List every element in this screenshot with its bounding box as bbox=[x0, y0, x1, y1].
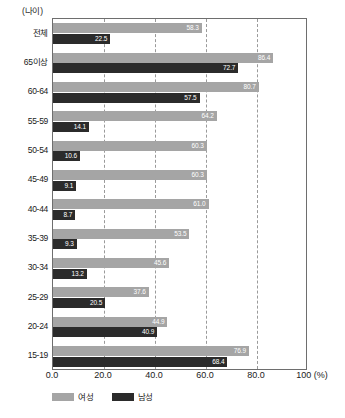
bar-chart: (나이) 전체65이상60-6455-5950-5445-4940-4435-3… bbox=[0, 0, 345, 418]
bar-female: 76.9 bbox=[53, 346, 249, 356]
bar-female: 61.0 bbox=[53, 199, 209, 209]
x-axis-tick-label: 80.0 bbox=[247, 371, 265, 380]
bar-female: 64.2 bbox=[53, 111, 217, 121]
bar-female: 86.4 bbox=[53, 53, 273, 63]
legend-item: 남성 bbox=[112, 393, 154, 402]
bar-value-label: 58.3 bbox=[186, 25, 198, 32]
bar-group: 45.613.2 bbox=[53, 254, 306, 283]
bar-value-label: 37.6 bbox=[134, 289, 146, 296]
legend-swatch-male bbox=[112, 393, 134, 401]
bar-male: 20.5 bbox=[53, 298, 105, 308]
x-axis-tick-label: 40.0 bbox=[145, 371, 163, 380]
y-axis-label: 50-54 bbox=[0, 146, 48, 155]
bar-female: 44.9 bbox=[53, 317, 167, 327]
y-axis-label: 30-34 bbox=[0, 263, 48, 272]
bar-female: 60.3 bbox=[53, 141, 207, 151]
bar-group: 37.620.5 bbox=[53, 283, 306, 312]
x-axis-tick-label: 0.0 bbox=[46, 371, 59, 380]
bar-male: 57.5 bbox=[53, 93, 200, 103]
x-axis-tick-label: 60.0 bbox=[196, 371, 214, 380]
bar-group: 86.472.7 bbox=[53, 48, 306, 77]
bar-group: 60.310.6 bbox=[53, 136, 306, 165]
bar-value-label: 13.2 bbox=[71, 270, 83, 277]
bar-value-label: 44.9 bbox=[152, 318, 164, 325]
bar-male: 9.1 bbox=[53, 181, 76, 191]
bar-male: 14.1 bbox=[53, 122, 89, 132]
bar-male: 13.2 bbox=[53, 269, 87, 279]
bar-group: 64.214.1 bbox=[53, 107, 306, 136]
y-axis-label: 35-39 bbox=[0, 234, 48, 243]
bar-group: 61.08.7 bbox=[53, 195, 306, 224]
y-axis-label: 55-59 bbox=[0, 117, 48, 126]
bar-group: 58.322.5 bbox=[53, 19, 306, 48]
bar-value-label: 20.5 bbox=[90, 300, 102, 307]
bar-group: 44.940.9 bbox=[53, 312, 306, 341]
bar-value-label: 60.3 bbox=[191, 142, 203, 149]
bar-female: 58.3 bbox=[53, 23, 202, 33]
bar-value-label: 14.1 bbox=[74, 124, 86, 131]
y-axis-label: 45-49 bbox=[0, 175, 48, 184]
y-axis-label: 65이상 bbox=[0, 58, 48, 67]
bar-female: 60.3 bbox=[53, 170, 207, 180]
bar-value-label: 86.4 bbox=[258, 54, 270, 61]
bar-male: 40.9 bbox=[53, 327, 157, 337]
y-axis-caption: (나이) bbox=[22, 4, 43, 16]
y-axis-label: 20-24 bbox=[0, 322, 48, 331]
bar-male: 8.7 bbox=[53, 210, 75, 220]
bar-male: 72.7 bbox=[53, 63, 238, 73]
y-axis-label: 전체 bbox=[0, 29, 48, 38]
bar-male: 10.6 bbox=[53, 151, 80, 161]
bar-female: 37.6 bbox=[53, 287, 149, 297]
bar-male: 68.4 bbox=[53, 357, 227, 367]
bar-value-label: 53.5 bbox=[174, 230, 186, 237]
bar-group: 60.39.1 bbox=[53, 166, 306, 195]
bar-value-label: 22.5 bbox=[95, 36, 107, 43]
x-axis-tick-labels: 0.020.040.060.080.0100 (%) bbox=[52, 371, 307, 385]
bar-value-label: 60.3 bbox=[191, 172, 203, 179]
bar-value-label: 80.7 bbox=[244, 84, 256, 91]
bar-value-label: 40.9 bbox=[142, 329, 154, 336]
y-axis-label: 40-44 bbox=[0, 205, 48, 214]
y-axis-label: 60-64 bbox=[0, 87, 48, 96]
bar-value-label: 45.6 bbox=[154, 260, 166, 267]
bar-group: 53.59.3 bbox=[53, 224, 306, 253]
bar-value-label: 57.5 bbox=[184, 94, 196, 101]
x-axis-tick-label: 20.0 bbox=[94, 371, 112, 380]
legend-item: 여성 bbox=[52, 393, 94, 402]
y-axis-category-labels: 전체65이상60-6455-5950-5445-4940-4435-3930-3… bbox=[0, 18, 48, 370]
bar-value-label: 8.7 bbox=[63, 212, 72, 219]
bar-male: 9.3 bbox=[53, 239, 77, 249]
legend-label: 여성 bbox=[78, 393, 94, 402]
bar-group: 80.757.5 bbox=[53, 78, 306, 107]
bar-value-label: 76.9 bbox=[234, 348, 246, 355]
bar-value-label: 9.1 bbox=[64, 182, 73, 189]
legend-label: 남성 bbox=[138, 393, 154, 402]
legend-swatch-female bbox=[52, 393, 74, 401]
bar-value-label: 9.3 bbox=[65, 241, 74, 248]
plot-area: 58.322.586.472.780.757.564.214.160.310.6… bbox=[52, 18, 307, 370]
y-axis-label: 25-29 bbox=[0, 293, 48, 302]
bar-male: 22.5 bbox=[53, 34, 110, 44]
bar-female: 45.6 bbox=[53, 258, 169, 268]
bar-value-label: 10.6 bbox=[65, 153, 77, 160]
bar-female: 80.7 bbox=[53, 82, 259, 92]
bar-value-label: 64.2 bbox=[201, 113, 213, 120]
bar-group: 76.968.4 bbox=[53, 342, 306, 370]
bar-value-label: 68.4 bbox=[212, 358, 224, 365]
bar-value-label: 72.7 bbox=[223, 65, 235, 72]
chart-legend: 여성남성 bbox=[52, 391, 153, 403]
y-axis-label: 15-19 bbox=[0, 351, 48, 360]
bar-value-label: 61.0 bbox=[193, 201, 205, 208]
bar-female: 53.5 bbox=[53, 229, 189, 239]
x-axis-tick-label: 100 (%) bbox=[296, 371, 328, 380]
